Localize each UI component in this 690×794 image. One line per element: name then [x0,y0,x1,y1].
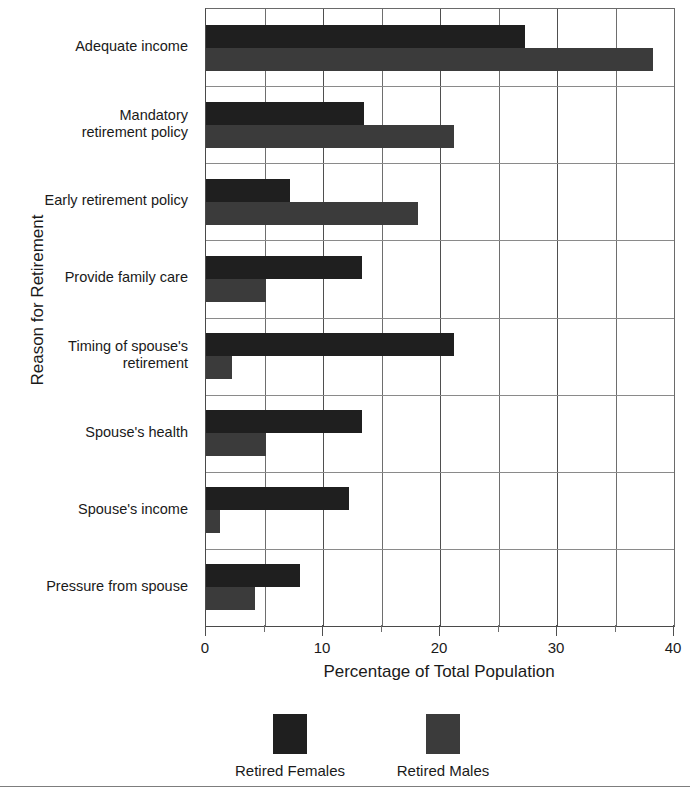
category-label-line: Adequate income [0,38,188,55]
category-label-line: retirement [0,355,188,372]
bar-group [206,86,674,163]
bar [206,333,454,356]
bar [206,356,232,379]
bar [206,102,364,125]
category-label-line: retirement policy [0,124,188,141]
legend-label: Retired Males [363,762,523,779]
category-label-2: Early retirement policy [0,192,188,209]
bar [206,256,362,279]
category-label-1: Mandatoryretirement policy [0,107,188,141]
category-label-7: Pressure from spouse [0,578,188,595]
bar [206,487,349,510]
x-tick-0 [205,625,206,636]
x-axis-title: Percentage of Total Population [205,662,673,682]
bar [206,202,418,225]
category-label-line: Early retirement policy [0,192,188,209]
legend-entry-female[interactable]: Retired Females [210,714,370,779]
category-label-line: Provide family care [0,269,188,286]
category-label-line: Spouse's health [0,424,188,441]
category-label-line: Spouse's income [0,501,188,518]
category-label-group: Adequate incomeMandatoryretirement polic… [0,8,196,625]
legend-label: Retired Females [210,762,370,779]
bar-group [206,318,674,395]
chart-legend: Retired FemalesRetired Males [0,714,690,780]
category-label-line: Timing of spouse's [0,338,188,355]
x-tick-label: 20 [431,639,448,656]
x-tick-label: 0 [201,639,209,656]
x-tick-label: 10 [314,639,331,656]
category-label-4: Timing of spouse'sretirement [0,338,188,372]
x-tick-20 [439,625,440,636]
bar-group [206,240,674,317]
category-label-5: Spouse's health [0,424,188,441]
bar [206,179,290,202]
category-label-0: Adequate income [0,38,188,55]
category-label-line: Pressure from spouse [0,578,188,595]
legend-swatch-female [273,714,307,754]
footer-divider [0,786,690,787]
bar-chart-figure: Reason for Retirement Adequate incomeMan… [0,0,690,794]
bar [206,125,454,148]
bar [206,279,266,302]
plot-area [205,8,675,627]
legend-entry-male[interactable]: Retired Males [363,714,523,779]
x-tick-label: 40 [665,639,682,656]
category-label-3: Provide family care [0,269,188,286]
bar [206,410,362,433]
x-axis-tick-labels: 010203040 [205,639,673,659]
category-label-line: Mandatory [0,107,188,124]
bar-group [206,9,674,86]
x-tick-35 [615,625,616,632]
bar-group [206,395,674,472]
bar [206,510,220,533]
x-tick-15 [381,625,382,632]
x-tick-10 [322,625,323,636]
x-tick-40 [673,625,674,636]
x-tick-label: 30 [548,639,565,656]
bar [206,587,255,610]
legend-swatch-male [426,714,460,754]
x-axis-ticks [205,625,673,637]
bar [206,48,653,71]
x-tick-30 [556,625,557,636]
bar [206,433,266,456]
bar [206,25,525,48]
bar-group [206,163,674,240]
x-tick-5 [264,625,265,632]
bar-group [206,549,674,626]
bar [206,564,300,587]
x-tick-25 [498,625,499,632]
category-label-6: Spouse's income [0,501,188,518]
bar-group [206,472,674,549]
